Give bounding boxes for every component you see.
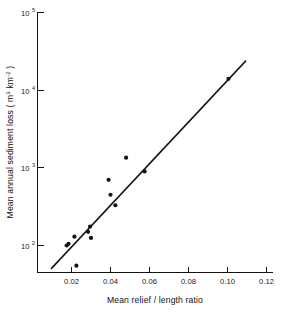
y-tick-label-1e3-exponent: 3 (32, 162, 35, 168)
data-point (113, 203, 117, 207)
data-point (226, 77, 230, 81)
x-tick-label-0-02: 0.02 (64, 277, 79, 286)
x-tick-label-0-08: 0.08 (181, 277, 196, 286)
y-axis-title-mid: km (5, 77, 15, 91)
x-tick-marks (72, 267, 267, 273)
y-tick-label-1e5-mantissa: 10 (21, 9, 29, 18)
y-axis-title-tail: ) (5, 66, 15, 72)
y-tick-marks (38, 13, 44, 246)
y-tick-label-1e2-exponent: 2 (32, 240, 35, 246)
data-point (108, 193, 112, 197)
y-tick-label-1e4-exponent: 4 (32, 85, 35, 91)
y-axis-title: Mean annual sediment loss ( m3 km-2 ) (5, 66, 15, 219)
x-tick-label-0-06: 0.06 (142, 277, 157, 286)
x-axis-title: Mean relief / length ratio (107, 295, 203, 305)
data-point (66, 242, 70, 246)
y-axis-title-main: Mean annual sediment loss ( m (5, 95, 15, 219)
chart-canvas: 10 5 10 4 10 3 10 2 0.02 0.04 0.06 0.08 … (0, 0, 284, 315)
x-tick-labels: 0.02 0.04 0.06 0.08 0.10 0.12 (64, 277, 274, 286)
data-point (74, 264, 78, 268)
axes-group (38, 12, 273, 273)
y-tick-labels: 10 5 10 4 10 3 10 2 (21, 7, 35, 252)
y-tick-label-1e5-exponent: 5 (32, 7, 35, 13)
data-point (86, 230, 90, 234)
data-point (143, 169, 147, 173)
x-tick-label-0-04: 0.04 (103, 277, 118, 286)
y-tick-label-1e3-mantissa: 10 (21, 164, 29, 173)
data-point (89, 236, 93, 240)
y-tick-label-1e2-mantissa: 10 (21, 242, 29, 251)
scatter-chart-figure: 10 5 10 4 10 3 10 2 0.02 0.04 0.06 0.08 … (0, 0, 284, 315)
data-point (88, 225, 92, 229)
data-point (72, 235, 76, 239)
data-point (106, 178, 110, 182)
data-point (124, 156, 128, 160)
y-axis-title-group: Mean annual sediment loss ( m3 km-2 ) (5, 66, 15, 219)
x-tick-label-0-12: 0.12 (259, 277, 274, 286)
x-tick-label-0-10: 0.10 (220, 277, 235, 286)
y-tick-label-1e4-mantissa: 10 (21, 87, 29, 96)
regression-fit-line (51, 61, 246, 269)
scatter-points-group (65, 77, 231, 268)
